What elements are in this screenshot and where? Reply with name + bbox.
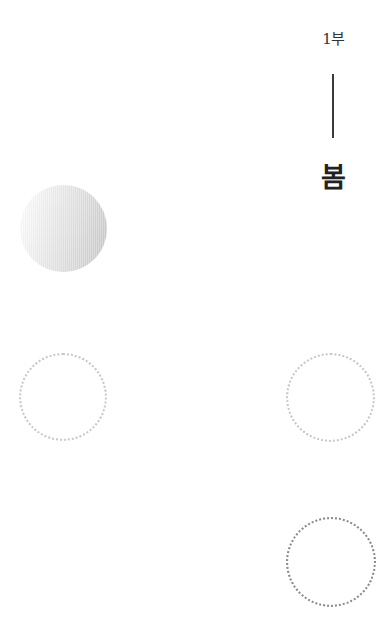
dotted-circle-right-bottom bbox=[286, 517, 376, 607]
gradient-circle-decoration bbox=[20, 185, 107, 272]
part-label: 1부 bbox=[316, 27, 350, 48]
dotted-circle-left bbox=[19, 353, 107, 441]
dotted-circle-right-top bbox=[286, 353, 375, 442]
vertical-divider bbox=[332, 74, 334, 138]
season-title: 봄 bbox=[314, 156, 352, 195]
